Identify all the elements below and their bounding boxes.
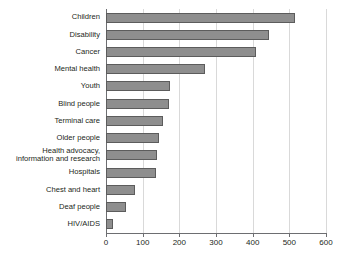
x-tick-label: 500	[283, 238, 296, 248]
x-axis-tick-labels: 0100200300400500600	[106, 238, 326, 250]
bar[interactable]	[106, 64, 205, 74]
x-tick-label: 600	[319, 238, 332, 248]
x-tick-600	[326, 233, 327, 237]
x-axis-ticks	[106, 233, 326, 237]
x-tick-200	[179, 233, 180, 237]
x-tick-label: 100	[136, 238, 149, 248]
category-label: Youth	[0, 78, 103, 95]
gridline-600	[326, 9, 327, 233]
x-tick-0	[106, 233, 107, 237]
x-tick-label: 200	[173, 238, 186, 248]
bar-slot	[106, 198, 326, 215]
bar[interactable]	[106, 81, 170, 91]
category-label: Deaf people	[0, 198, 103, 215]
bar[interactable]	[106, 133, 159, 143]
category-label: Blind people	[0, 95, 103, 112]
x-tick-400	[253, 233, 254, 237]
bar-slot	[106, 216, 326, 233]
bar[interactable]	[106, 185, 135, 195]
bar-slot	[106, 164, 326, 181]
bar-slot	[106, 112, 326, 129]
category-label: Hospitals	[0, 164, 103, 181]
category-label: Terminal care	[0, 112, 103, 129]
bar-slot	[106, 147, 326, 164]
bar-slot	[106, 130, 326, 147]
bar[interactable]	[106, 219, 113, 229]
bar[interactable]	[106, 202, 126, 212]
category-label: Chest and heart	[0, 181, 103, 198]
x-tick-100	[143, 233, 144, 237]
bar-slot	[106, 43, 326, 60]
bar-slot	[106, 9, 326, 26]
bar-slot	[106, 61, 326, 78]
category-label: HIV/AIDS	[0, 216, 103, 233]
category-label: Mental health	[0, 61, 103, 78]
category-label: Health advocacy, information and researc…	[0, 147, 103, 164]
bar[interactable]	[106, 150, 157, 160]
bar-chart: ChildrenDisabilityCancerMental healthYou…	[0, 0, 340, 254]
bars-layer	[106, 9, 326, 233]
category-label: Cancer	[0, 43, 103, 60]
bar[interactable]	[106, 30, 269, 40]
category-label: Children	[0, 9, 103, 26]
x-tick-300	[216, 233, 217, 237]
x-tick-label: 0	[104, 238, 108, 248]
category-label: Older people	[0, 130, 103, 147]
bar[interactable]	[106, 116, 163, 126]
bar[interactable]	[106, 47, 256, 57]
plot-area	[106, 9, 326, 233]
x-tick-500	[289, 233, 290, 237]
bar-slot	[106, 95, 326, 112]
category-axis-labels: ChildrenDisabilityCancerMental healthYou…	[0, 9, 103, 233]
bar[interactable]	[106, 168, 156, 178]
bar-slot	[106, 26, 326, 43]
x-tick-label: 300	[209, 238, 222, 248]
bar[interactable]	[106, 13, 295, 23]
x-tick-label: 400	[246, 238, 259, 248]
bar-slot	[106, 181, 326, 198]
category-label: Disability	[0, 26, 103, 43]
bar[interactable]	[106, 99, 169, 109]
bar-slot	[106, 78, 326, 95]
